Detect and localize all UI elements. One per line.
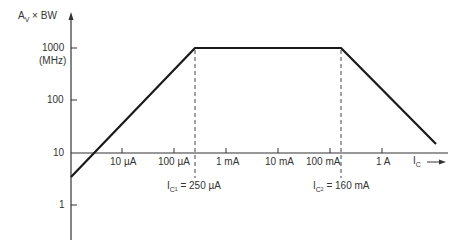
- x-tick-label-10ua: 10 µA: [110, 156, 136, 167]
- y-axis-arrow-icon: [69, 12, 74, 20]
- y-unit-label: (MHz): [39, 55, 66, 66]
- ic-arrow-icon: [439, 160, 446, 165]
- y-tick-label-10: 10: [53, 147, 64, 158]
- x-tick-label-10ma: 10 mA: [265, 156, 294, 167]
- x-tick-label-100ma: 100 mA: [306, 156, 340, 167]
- x-tick-label-1a: 1 A: [376, 156, 390, 167]
- chart-canvas: [0, 0, 467, 249]
- y-tick-label-1000: 1000: [42, 42, 64, 53]
- y-axis-label: AV × BW: [18, 10, 57, 23]
- ic2-annotation: IC2 = 160 mA: [313, 180, 369, 193]
- y-tick-label-1: 1: [59, 199, 65, 210]
- x-axis-label: IC: [413, 155, 421, 168]
- x-tick-label-100ua: 100 µA: [158, 156, 190, 167]
- ic1-annotation: IC1 = 250 µA: [167, 180, 221, 193]
- y-tick-label-100: 100: [47, 94, 64, 105]
- x-tick-label-1ma: 1 mA: [216, 156, 239, 167]
